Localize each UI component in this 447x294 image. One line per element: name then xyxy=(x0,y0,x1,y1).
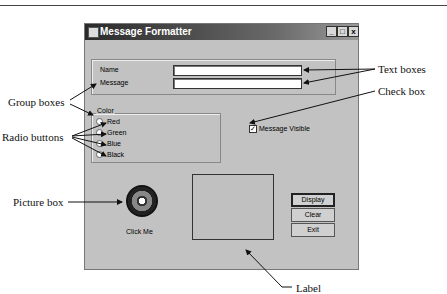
clear-button[interactable]: Clear xyxy=(291,208,335,222)
radio-label: Blue xyxy=(107,140,121,147)
message-visible-label: Message Visible xyxy=(259,125,310,132)
exit-button[interactable]: Exit xyxy=(291,223,335,237)
app-icon xyxy=(88,27,99,38)
message-textbox[interactable] xyxy=(173,78,302,89)
name-label: Name xyxy=(100,66,119,73)
close-button[interactable]: x xyxy=(348,26,359,37)
callout-picture-box: Picture box xyxy=(13,196,63,208)
name-textbox[interactable] xyxy=(173,65,302,76)
radio-label: Red xyxy=(107,118,120,125)
radio-black[interactable]: Black xyxy=(96,150,124,159)
click-me-label: Click Me xyxy=(126,228,153,235)
radio-circle-icon[interactable] xyxy=(96,129,103,136)
radio-circle-icon[interactable] xyxy=(96,151,103,158)
page-rule xyxy=(0,5,447,6)
input-group-box: Name Message xyxy=(91,59,336,95)
message-label: Message xyxy=(100,79,128,86)
color-group-title: Color xyxy=(96,107,115,114)
radio-label: Green xyxy=(107,129,126,136)
radio-red[interactable]: Red xyxy=(96,117,120,126)
title-bar[interactable]: Message Formatter _ □ x xyxy=(85,24,358,40)
callout-group-boxes: Group boxes xyxy=(8,96,65,108)
color-group-box: Color Red Green Blue Black xyxy=(91,113,221,163)
callout-radio-buttons: Radio buttons xyxy=(2,131,63,143)
radio-blue[interactable]: Blue xyxy=(96,139,121,148)
radio-green[interactable]: Green xyxy=(96,128,126,137)
minimize-button[interactable]: _ xyxy=(326,26,337,37)
display-button[interactable]: Display xyxy=(291,193,335,207)
radio-label: Black xyxy=(107,151,124,158)
message-visible-checkbox[interactable]: ✓ xyxy=(249,125,257,133)
callout-text-boxes: Text boxes xyxy=(378,63,426,75)
output-label xyxy=(192,174,274,240)
callout-label: Label xyxy=(296,282,321,294)
window-title: Message Formatter xyxy=(100,24,192,40)
maximize-button[interactable]: □ xyxy=(337,26,348,37)
radio-circle-icon[interactable] xyxy=(96,140,103,147)
cd-picture-icon[interactable] xyxy=(126,185,158,217)
message-formatter-window: Message Formatter _ □ x Name Message Col… xyxy=(84,23,359,270)
radio-circle-icon[interactable] xyxy=(96,118,103,125)
callout-check-box: Check box xyxy=(378,85,425,97)
